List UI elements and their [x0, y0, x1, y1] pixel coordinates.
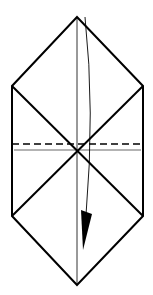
background [0, 0, 153, 295]
origami-diagram [0, 0, 153, 295]
